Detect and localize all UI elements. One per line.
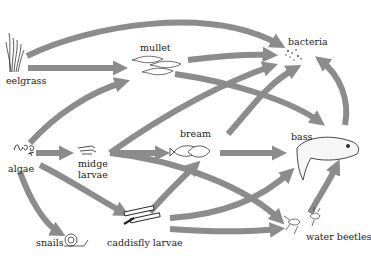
arrow-mullet-bacteria (188, 55, 272, 60)
bacteria-icon (285, 49, 302, 61)
label-midge-line1: midge (78, 158, 108, 169)
mullet-icon (132, 56, 181, 75)
bream-icon (170, 146, 210, 157)
arrow-bass-bacteria (320, 60, 346, 125)
label-snails: snails (36, 237, 64, 248)
label-bream: bream (180, 128, 211, 139)
label-caddisfly-larvae: caddisfly larvae (107, 237, 183, 248)
label-algae: algae (8, 163, 34, 174)
label-bass: bass (291, 131, 313, 142)
label-midge-line2: larvae (78, 169, 108, 180)
arrow-caddisfly-beetles (170, 229, 279, 231)
bass-icon (297, 137, 359, 180)
water-beetles-icon (284, 207, 320, 234)
label-water-beetles: water beetles (306, 231, 371, 242)
snail-icon (64, 234, 88, 246)
arrow-algae-snails (20, 172, 60, 233)
label-bacteria: bacteria (288, 36, 328, 47)
eelgrass-icon (6, 33, 24, 72)
midge-larvae-icon (78, 146, 96, 154)
arrow-algae-mullet (30, 82, 124, 143)
algae-icon (14, 145, 34, 156)
arrow-beetles-bass (310, 165, 337, 213)
arrow-caddisfly-bream (150, 165, 196, 212)
label-eelgrass: eelgrass (6, 75, 46, 86)
label-mullet: mullet (140, 42, 171, 53)
